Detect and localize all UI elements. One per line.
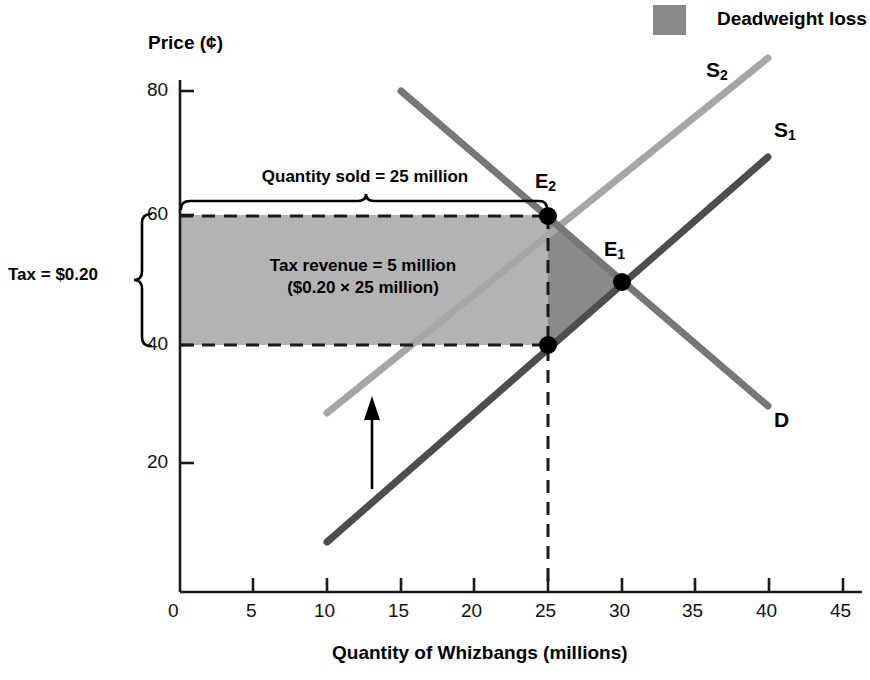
point-label-e1-text: E (604, 238, 617, 260)
x-tick-label-20: 20 (461, 600, 482, 622)
point-label-e2-subscript: 2 (548, 178, 556, 194)
x-tick-label-5: 5 (246, 600, 257, 622)
point-supply-price-marker (539, 336, 557, 354)
curve-label-s2-subscript: 2 (720, 67, 728, 83)
legend-label-deadweight-loss: Deadweight loss (717, 8, 867, 30)
annotation-quantity-sold: Quantity sold = 25 million (195, 167, 535, 187)
point-e1-marker (613, 273, 631, 291)
curve-label-s2-text: S (706, 58, 720, 81)
x-tick-label-10: 10 (314, 600, 335, 622)
x-tick-label-25: 25 (535, 600, 556, 622)
annotation-tax-revenue-line2: ($0.20 × 25 million) (198, 278, 528, 298)
curve-label-s2: S2 (706, 58, 728, 84)
x-tick-label-35: 35 (682, 600, 703, 622)
quantity-sold-brace (181, 194, 547, 209)
point-label-e2: E2 (535, 170, 556, 195)
x-tick-label-45: 45 (830, 600, 851, 622)
y-tick-label-60: 60 (147, 203, 168, 225)
x-tick-label-0: 0 (168, 600, 179, 622)
curve-label-s1-subscript: 1 (788, 127, 796, 143)
tax-brace (134, 214, 151, 346)
economics-tax-incidence-figure: Deadweight loss Price (¢) Quantity of Wh… (0, 0, 870, 680)
supply-shift-arrow-icon (364, 396, 380, 489)
y-axis-title: Price (¢) (148, 32, 223, 54)
annotation-tax-amount: Tax = $0.20 (8, 265, 132, 285)
point-label-e2-text: E (535, 170, 548, 192)
point-label-e1-subscript: 1 (617, 246, 625, 262)
point-label-e1: E1 (604, 238, 625, 263)
y-tick-label-80: 80 (147, 79, 168, 101)
curve-label-s1: S1 (774, 118, 796, 144)
x-tick-label-40: 40 (756, 600, 777, 622)
y-tick-label-20: 20 (147, 451, 168, 473)
x-tick-label-30: 30 (609, 600, 630, 622)
annotation-tax-revenue-line1: Tax revenue = 5 million (198, 256, 528, 276)
deadweight-loss-region (548, 216, 622, 345)
legend-swatch-deadweight-loss (653, 5, 686, 35)
x-tick-label-15: 15 (388, 600, 409, 622)
y-tick-label-40: 40 (147, 333, 168, 355)
chart-canvas (0, 0, 870, 680)
curve-label-demand: D (774, 408, 789, 433)
x-axis-title: Quantity of Whizbangs (millions) (332, 642, 628, 664)
curve-label-s1-text: S (774, 118, 788, 141)
